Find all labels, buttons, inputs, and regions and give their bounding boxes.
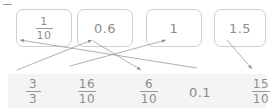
option-value-1: 1 (170, 22, 179, 35)
corner-mark (3, 1, 12, 5)
fraction-denominator: 10 (78, 92, 96, 105)
option-value-0-point-6: 0.6 (94, 22, 116, 35)
matching-exercise-diagram: 1 10 0.6 1 1.5 3 3 16 10 6 10 (0, 0, 274, 108)
fraction-16-over-10: 16 10 (78, 78, 96, 105)
fraction-15-over-10: 15 10 (252, 78, 270, 105)
fraction-denominator: 10 (252, 92, 270, 105)
option-box-0-point-6[interactable]: 0.6 (77, 9, 133, 47)
answer-15-over-10[interactable]: 15 10 (238, 78, 274, 105)
fraction-denominator: 10 (36, 29, 53, 41)
answer-3-over-3[interactable]: 3 3 (10, 78, 56, 105)
fraction-denominator: 3 (28, 92, 38, 105)
answer-6-over-10[interactable]: 6 10 (126, 78, 172, 105)
fraction-3-over-3: 3 3 (26, 78, 41, 105)
answer-16-over-10[interactable]: 16 10 (64, 78, 110, 105)
option-value-1-point-5: 1.5 (229, 22, 251, 35)
fraction-numerator: 15 (252, 78, 270, 91)
answer-0-point-1[interactable]: 0.1 (180, 82, 220, 102)
fraction-numerator: 1 (39, 16, 49, 28)
answer-value-0-point-1: 0.1 (189, 86, 211, 99)
fraction-denominator: 10 (140, 92, 158, 105)
fraction-numerator: 6 (144, 78, 154, 91)
option-box-1-over-10[interactable]: 1 10 (16, 9, 72, 47)
option-box-1[interactable]: 1 (146, 9, 202, 47)
fraction-numerator: 16 (78, 78, 96, 91)
fraction-numerator: 3 (28, 78, 38, 91)
option-box-1-point-5[interactable]: 1.5 (214, 9, 266, 47)
fraction-1-over-10: 1 10 (36, 16, 53, 41)
fraction-6-over-10: 6 10 (140, 78, 158, 105)
